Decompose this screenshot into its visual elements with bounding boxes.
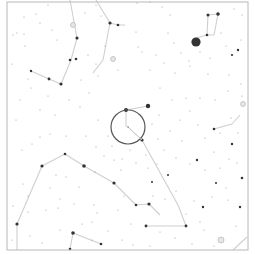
star [237, 49, 239, 51]
faint-star [204, 169, 205, 170]
faint-star [95, 63, 96, 64]
faint-star [188, 60, 189, 61]
faint-star [159, 231, 160, 232]
faint-star [39, 22, 40, 23]
star [167, 174, 169, 176]
faint-star [123, 195, 124, 196]
faint-star [78, 186, 79, 187]
faint-star [156, 163, 157, 164]
faint-star [189, 110, 190, 111]
faint-star [47, 95, 48, 96]
star [135, 204, 138, 207]
faint-star [199, 51, 200, 52]
star [206, 34, 209, 37]
star [64, 153, 67, 156]
faint-star [94, 171, 95, 172]
faint-star [240, 83, 241, 84]
faint-star [23, 16, 24, 17]
faint-star [173, 42, 174, 43]
faint-star [137, 46, 138, 47]
faint-star [88, 92, 89, 93]
faint-star [233, 8, 234, 9]
faint-star [95, 146, 96, 147]
star [82, 164, 86, 168]
faint-star [27, 78, 28, 79]
faint-star [185, 97, 186, 98]
faint-star [120, 169, 121, 170]
faint-star [180, 52, 181, 53]
faint-star [227, 90, 228, 91]
faint-star [209, 57, 210, 58]
faint-star [132, 244, 133, 245]
target-center [127, 126, 129, 128]
star [196, 159, 198, 161]
faint-star [95, 4, 96, 5]
faint-star [189, 65, 190, 66]
faint-star [103, 155, 104, 156]
faint-star [164, 198, 165, 199]
star [241, 177, 244, 180]
nebula-marker [218, 237, 224, 243]
faint-star [96, 212, 97, 213]
faint-star [11, 239, 12, 240]
faint-star [41, 242, 42, 243]
faint-star [225, 187, 226, 188]
faint-star [113, 159, 114, 160]
star [112, 181, 115, 184]
faint-star [16, 32, 17, 33]
faint-star [193, 200, 194, 201]
star [75, 58, 78, 61]
star [215, 182, 217, 184]
faint-star [236, 162, 237, 163]
faint-star [22, 183, 23, 184]
faint-star [135, 31, 136, 32]
faint-star [84, 12, 85, 13]
faint-star [91, 221, 92, 222]
star [108, 21, 111, 24]
faint-star [57, 207, 58, 208]
star [191, 37, 200, 46]
faint-star [97, 119, 98, 120]
faint-star [23, 33, 24, 34]
faint-star [24, 45, 25, 46]
star [213, 128, 216, 131]
faint-star [47, 4, 48, 5]
faint-star [80, 79, 81, 80]
faint-star [175, 190, 176, 191]
faint-star [175, 157, 176, 158]
faint-star [181, 140, 182, 141]
nebula-marker [241, 102, 246, 107]
faint-star [147, 167, 148, 168]
faint-star [161, 6, 162, 7]
faint-star [149, 245, 150, 246]
faint-star [59, 198, 60, 199]
star [48, 78, 51, 81]
faint-star [225, 45, 226, 46]
faint-star [130, 223, 131, 224]
faint-star [104, 45, 105, 46]
faint-star [213, 151, 214, 152]
star [207, 14, 210, 17]
faint-star [157, 138, 158, 139]
faint-star [121, 239, 122, 240]
faint-star [11, 63, 12, 64]
faint-star [68, 99, 69, 100]
star [71, 231, 75, 235]
faint-star [171, 99, 172, 100]
faint-star [228, 74, 229, 75]
faint-star [235, 225, 236, 226]
faint-star [219, 132, 220, 133]
star [202, 206, 204, 208]
faint-star [49, 133, 50, 134]
star [216, 12, 220, 16]
faint-star [117, 69, 118, 70]
faint-star [136, 2, 137, 3]
faint-star [191, 243, 192, 244]
faint-star [203, 229, 204, 230]
faint-star [237, 132, 238, 133]
faint-star [158, 114, 159, 115]
faint-star [159, 87, 160, 88]
faint-star [155, 54, 156, 55]
faint-star [107, 230, 108, 231]
faint-star [31, 143, 32, 144]
